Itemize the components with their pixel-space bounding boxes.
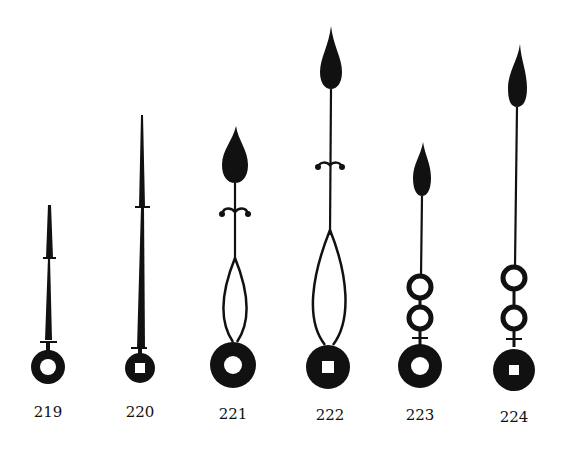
hand-219-icon: [31, 205, 65, 384]
clock-hands-drawing: [0, 0, 564, 450]
hand-221-icon: [210, 126, 256, 388]
hand-223-icon: [398, 142, 442, 388]
hand-label-220: 220: [126, 403, 155, 421]
hand-label-221: 221: [219, 405, 248, 423]
hand-label-222: 222: [316, 406, 345, 424]
hand-220-icon: [125, 115, 155, 383]
hand-label-223: 223: [406, 406, 435, 424]
hand-222-icon: [306, 26, 350, 389]
hand-label-219: 219: [34, 403, 63, 421]
hand-224-icon: [493, 44, 535, 391]
hand-label-224: 224: [500, 408, 529, 426]
